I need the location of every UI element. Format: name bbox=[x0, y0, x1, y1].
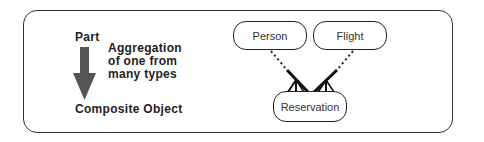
node-label: Flight bbox=[337, 30, 364, 42]
aggregation-description: Aggregation of one from many types bbox=[108, 42, 182, 81]
node-label: Reservation bbox=[281, 101, 340, 113]
edge-flight-reservation bbox=[314, 51, 353, 92]
description-line: many types bbox=[108, 68, 182, 81]
node-flight: Flight bbox=[313, 21, 387, 50]
edge-person-reservation bbox=[271, 51, 308, 92]
node-label: Person bbox=[253, 30, 288, 42]
down-arrow-icon bbox=[73, 47, 96, 100]
composite-object-label: Composite Object bbox=[75, 103, 182, 116]
node-person: Person bbox=[233, 21, 307, 50]
node-reservation: Reservation bbox=[273, 91, 347, 122]
